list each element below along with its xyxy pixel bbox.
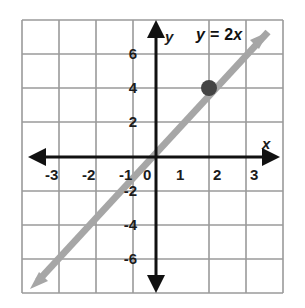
y-tick-label: -6 bbox=[124, 250, 137, 267]
x-tick-label: -2 bbox=[82, 166, 95, 183]
equation-operator: = bbox=[210, 26, 219, 43]
coordinate-graph: -3 -2 -1 0 1 2 3 6 4 2 -2 -4 -6 y x y=2x bbox=[0, 0, 305, 308]
x-tick-label: -3 bbox=[45, 166, 58, 183]
equation-coefficient: 2 bbox=[224, 26, 233, 43]
x-tick-label: 2 bbox=[213, 166, 221, 183]
x-tick-label: 3 bbox=[250, 166, 258, 183]
x-tick-label: 1 bbox=[176, 166, 184, 183]
x-axis-label: x bbox=[261, 135, 271, 152]
equation-variable: x bbox=[232, 26, 243, 43]
svg-text:y=2x: y=2x bbox=[195, 26, 243, 43]
y-tick-label: 6 bbox=[129, 45, 137, 62]
y-tick-label: -2 bbox=[124, 182, 137, 199]
graph-canvas: -3 -2 -1 0 1 2 3 6 4 2 -2 -4 -6 y x y=2x bbox=[0, 0, 305, 308]
y-tick-label: -4 bbox=[124, 216, 138, 233]
origin-label: 0 bbox=[143, 166, 151, 183]
plotted-points bbox=[201, 80, 217, 96]
equation-lhs: y bbox=[195, 26, 206, 43]
equation-label: y=2x bbox=[195, 26, 243, 43]
y-tick-label: 4 bbox=[129, 79, 138, 96]
point-2-4 bbox=[201, 80, 217, 96]
y-tick-label: 2 bbox=[129, 113, 137, 130]
y-axis-label: y bbox=[164, 28, 174, 45]
x-tick-label: -1 bbox=[119, 166, 132, 183]
